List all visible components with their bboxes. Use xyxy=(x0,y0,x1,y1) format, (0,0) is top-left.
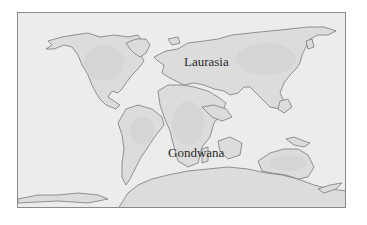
shade-africa xyxy=(172,101,204,145)
map-frame: Laurasia Gondwana xyxy=(17,12,346,208)
southern-landmass xyxy=(18,193,108,203)
gondwana-label: Gondwana xyxy=(168,146,224,159)
arctic-island xyxy=(168,37,180,45)
antarctica xyxy=(118,167,346,208)
southeast-asia-island xyxy=(278,99,292,113)
japan-island xyxy=(306,39,314,49)
shade-asia xyxy=(236,43,296,75)
shade-south-america xyxy=(130,117,154,145)
shade-australia xyxy=(270,155,306,171)
laurasia-label: Laurasia xyxy=(184,55,229,68)
new-guinea xyxy=(286,137,310,147)
continents-map xyxy=(18,13,346,208)
shade-north-america xyxy=(84,45,124,81)
south-america xyxy=(118,105,164,185)
